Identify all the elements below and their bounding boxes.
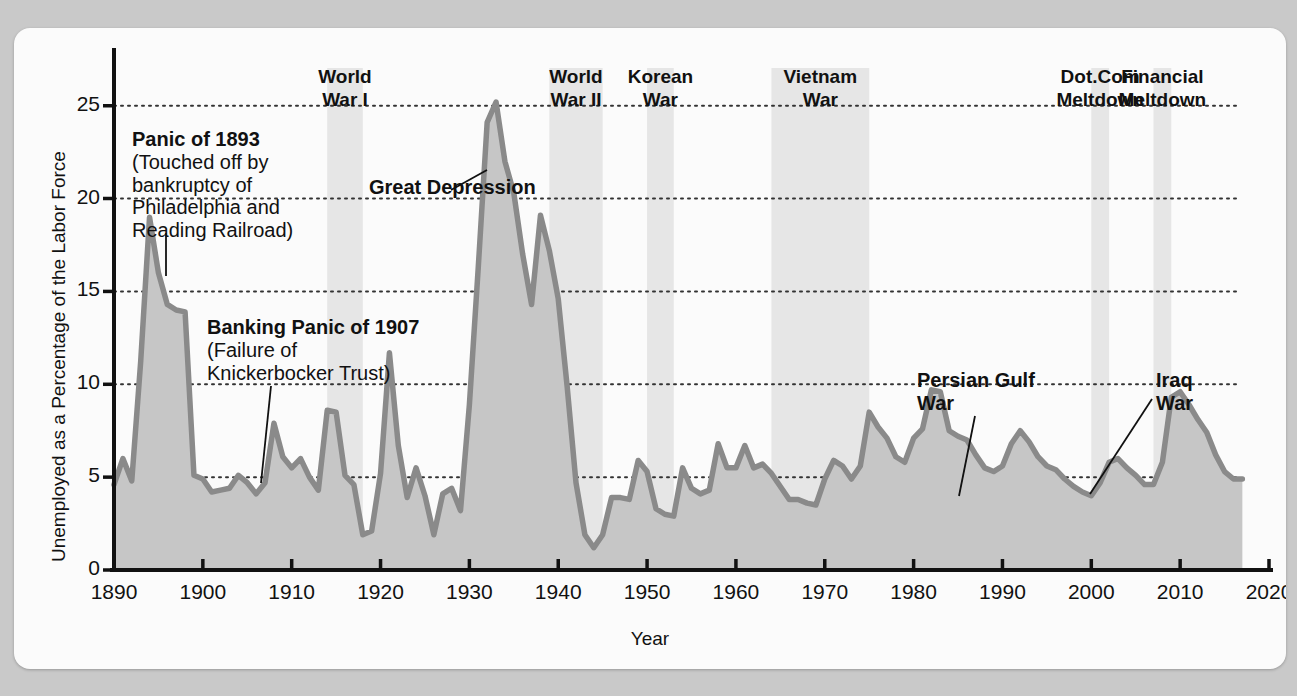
shaded-period-label: Financial Meltdown [1087, 66, 1237, 112]
annotation-title: Persian Gulf War [917, 369, 1035, 415]
x-tick-label: 1970 [785, 580, 865, 604]
annotation-title: Panic of 1893 [132, 128, 293, 151]
x-tick-label: 1890 [74, 580, 154, 604]
chart-annotation: Banking Panic of 1907(Failure of Knicker… [207, 316, 419, 384]
chart-figure: World War IWorld War IIKorean WarVietnam… [14, 28, 1286, 669]
annotation-body: (Touched off by bankruptcy of Philadelph… [132, 151, 293, 242]
x-tick-label: 2000 [1051, 580, 1131, 604]
chart-annotation: Panic of 1893(Touched off by bankruptcy … [132, 128, 293, 242]
chart-annotation: Great Depression [369, 176, 536, 199]
x-tick-label: 1980 [874, 580, 954, 604]
annotation-title: Banking Panic of 1907 [207, 316, 419, 339]
x-tick-label: 2010 [1140, 580, 1220, 604]
x-tick-label: 1900 [163, 580, 243, 604]
unemployment-area-chart [14, 28, 1286, 669]
annotation-title: Iraq War [1156, 369, 1193, 415]
shaded-period-label: Vietnam War [745, 66, 895, 112]
x-tick-label: 2020 [1229, 580, 1286, 604]
x-tick-label: 1950 [607, 580, 687, 604]
y-axis-label: Unemployed as a Percentage of the Labor … [48, 151, 70, 562]
annotation-body: (Failure of Knickerbocker Trust) [207, 339, 419, 385]
x-tick-label: 1930 [429, 580, 509, 604]
chart-annotation: Persian Gulf War [917, 369, 1035, 415]
x-tick-label: 1920 [341, 580, 421, 604]
shaded-period-label: Korean War [585, 66, 735, 112]
x-tick-label: 1990 [962, 580, 1042, 604]
x-tick-label: 1910 [252, 580, 332, 604]
annotation-title: Great Depression [369, 176, 536, 199]
chart-annotation: Iraq War [1156, 369, 1193, 415]
x-axis-label: Year [14, 628, 1286, 650]
shaded-period-label: World War I [270, 66, 420, 112]
y-tick-label: 25 [54, 92, 100, 116]
x-tick-label: 1940 [518, 580, 598, 604]
x-tick-label: 1960 [696, 580, 776, 604]
